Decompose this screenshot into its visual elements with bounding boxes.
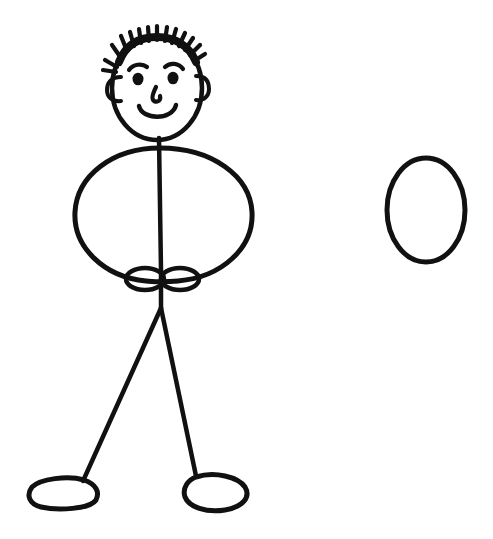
background	[0, 0, 493, 539]
left-eye-icon	[133, 73, 144, 86]
drawing-canvas	[0, 0, 493, 539]
stick-figure-illustration	[0, 0, 493, 539]
right-eye-icon	[168, 72, 179, 85]
